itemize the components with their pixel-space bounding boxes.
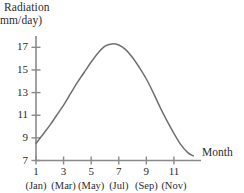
y-tick-label: 7 [10,155,28,166]
y-tick-label: 15 [10,64,28,75]
x-tick-label: 3 [53,166,75,177]
x-tick-label: 5 [80,166,102,177]
x-tick-month-label: (Nov) [156,180,192,191]
x-tick-label: 7 [108,166,130,177]
y-tick-label: 9 [10,132,28,143]
y-tick-label: 17 [10,41,28,52]
radiation-chart: Radiation mm/day) Month 7911131517 1(Jan… [0,0,244,193]
x-tick-label: 1 [25,166,47,177]
y-tick-label: 13 [10,87,28,98]
radiation-curve [36,44,193,156]
x-tick-label: 11 [163,166,185,177]
x-tick-label: 9 [135,166,157,177]
y-tick-label: 11 [10,109,28,120]
